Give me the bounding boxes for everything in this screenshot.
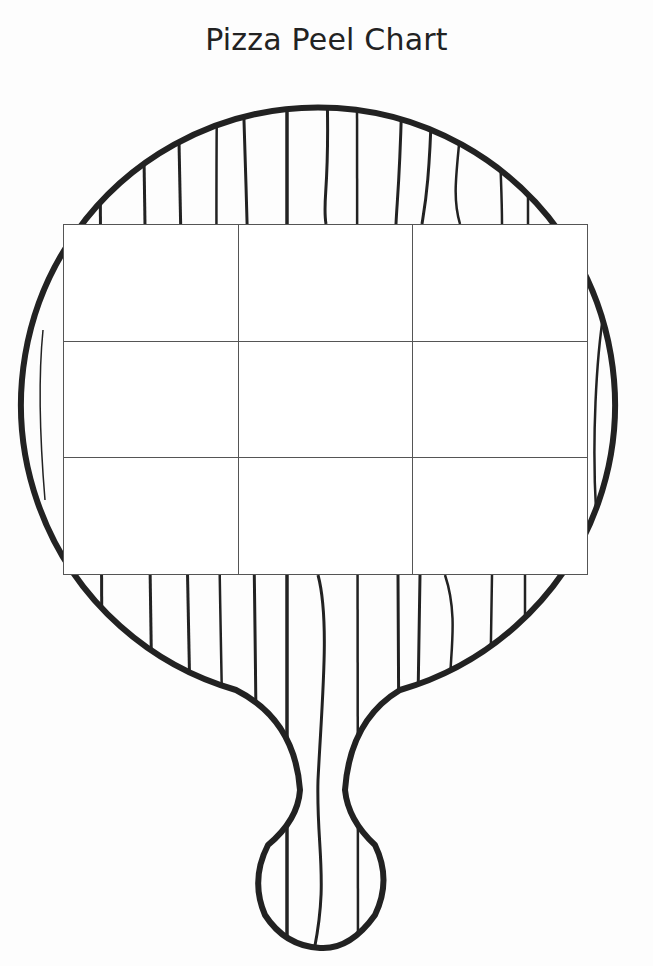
grid-cell-r2c2[interactable]	[238, 341, 413, 458]
table-row	[64, 458, 588, 575]
grid-cell-r1c2[interactable]	[238, 225, 413, 342]
grid-cell-r3c1[interactable]	[64, 458, 239, 575]
grid-cell-r1c3[interactable]	[413, 225, 588, 342]
table-row	[64, 225, 588, 342]
grid-cell-r1c1[interactable]	[64, 225, 239, 342]
grid-cell-r3c3[interactable]	[413, 458, 588, 575]
grid-cell-r3c2[interactable]	[238, 458, 413, 575]
grid-cell-r2c3[interactable]	[413, 341, 588, 458]
chart-grid	[63, 224, 588, 575]
table-row	[64, 341, 588, 458]
grid-cell-r2c1[interactable]	[64, 341, 239, 458]
